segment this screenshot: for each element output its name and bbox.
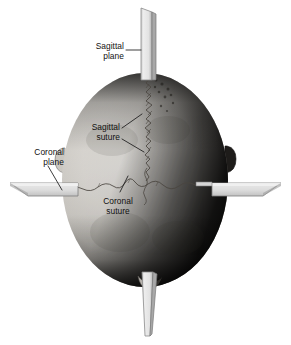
sagittal-plane-upper: [141, 8, 156, 80]
coronal-plane-left-wing: [10, 183, 78, 196]
skull-diagram-svg: [0, 0, 291, 345]
anatomy-figure: Sagittal plane Sagittal suture Coronal p…: [0, 0, 291, 345]
label-sagittal-plane: Sagittal plane: [62, 41, 124, 61]
coronal-plane-right-wing: [212, 183, 281, 196]
label-coronal-suture: Coronal suture: [86, 196, 150, 216]
sagittal-plane-lower: [142, 272, 157, 336]
label-sagittal-suture: Sagittal suture: [60, 122, 120, 142]
coronal-plane-right-tab: [196, 182, 212, 186]
label-coronal-plane: Coronal plane: [2, 147, 64, 167]
skull-superior-view: [55, 73, 236, 288]
